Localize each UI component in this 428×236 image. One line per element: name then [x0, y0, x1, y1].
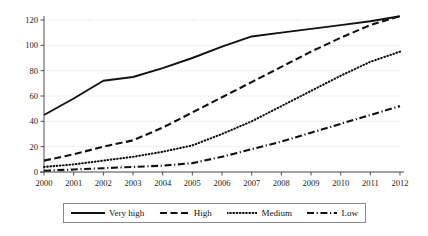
x-tick-label-2000: 2000	[36, 178, 53, 188]
legend-label: Medium	[261, 208, 292, 218]
x-tick-label-2010: 2010	[332, 178, 349, 188]
data-series-group	[44, 16, 400, 171]
x-tick-label-2005: 2005	[184, 178, 201, 188]
legend-swatch-dotted	[227, 209, 257, 217]
legend-item-high[interactable]: High	[160, 208, 212, 218]
y-tick-label-120: 120	[25, 15, 38, 25]
x-tick-label-2009: 2009	[303, 178, 320, 188]
legend-item-low[interactable]: Low	[307, 208, 358, 218]
series-line-high	[44, 16, 400, 160]
y-tick-labels: 020406080100120	[25, 15, 38, 177]
x-tick-labels: 2000200120022003200420052006200720082009…	[36, 178, 409, 188]
series-line-medium	[44, 52, 400, 167]
y-tick-label-0: 0	[34, 167, 38, 177]
x-axis	[40, 172, 404, 176]
chart-svg: 020406080100120 200020012002200320042005…	[0, 0, 428, 195]
y-tick-label-40: 40	[30, 116, 39, 126]
legend-label: Very high	[109, 208, 144, 218]
series-line-very-high	[44, 16, 400, 115]
x-tick-label-2004: 2004	[154, 178, 172, 188]
legend-swatch-dashdot	[307, 209, 337, 217]
y-tick-label-80: 80	[30, 66, 39, 76]
legend-label: High	[194, 208, 212, 218]
x-tick-label-2003: 2003	[125, 178, 142, 188]
y-tick-label-20: 20	[30, 142, 39, 152]
legend-item-medium[interactable]: Medium	[227, 208, 292, 218]
x-tick-label-2012: 2012	[392, 178, 409, 188]
y-tick-label-60: 60	[30, 91, 39, 101]
x-tick-label-2011: 2011	[362, 178, 379, 188]
legend-label: Low	[341, 208, 358, 218]
y-axis	[41, 16, 45, 172]
x-tick-label-2002: 2002	[95, 178, 112, 188]
legend-item-very-high[interactable]: Very high	[71, 208, 144, 218]
legend-swatch-solid	[71, 209, 105, 217]
x-tick-label-2006: 2006	[214, 178, 231, 188]
chart-legend: Very highHighMediumLow	[63, 203, 366, 223]
x-tick-label-2001: 2001	[65, 178, 82, 188]
plot-area: 020406080100120 200020012002200320042005…	[0, 0, 428, 195]
line-chart: 020406080100120 200020012002200320042005…	[0, 0, 428, 236]
x-tick-label-2007: 2007	[243, 178, 260, 188]
legend-swatch-dashed	[160, 209, 190, 217]
y-tick-label-100: 100	[25, 40, 38, 50]
x-tick-label-2008: 2008	[273, 178, 290, 188]
